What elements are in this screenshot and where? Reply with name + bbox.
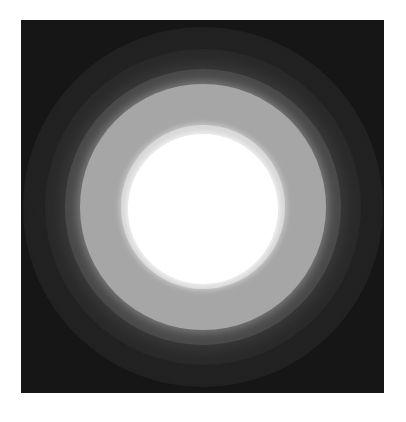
image-frame	[21, 20, 384, 393]
core	[128, 134, 278, 284]
